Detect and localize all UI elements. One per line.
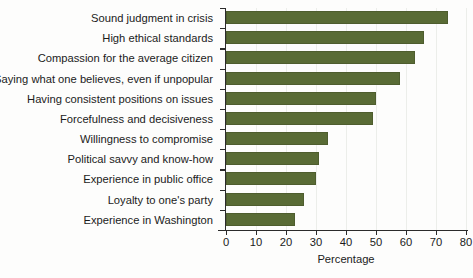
bar-row <box>226 69 466 89</box>
bar <box>226 132 328 145</box>
bar-row <box>226 210 466 230</box>
x-axis-tick <box>286 230 287 235</box>
category-label: Forcefulness and decisiveness <box>60 109 213 129</box>
bar-row <box>226 109 466 129</box>
x-axis-title: Percentage <box>226 253 466 265</box>
bar <box>226 152 319 165</box>
bar <box>226 31 424 44</box>
x-axis-tick <box>226 230 227 235</box>
category-label: Willingness to compromise <box>80 129 213 149</box>
bar-row <box>226 149 466 169</box>
bar-row <box>226 129 466 149</box>
x-axis-tick-label: 50 <box>370 236 382 248</box>
bar-chart: Sound judgment in crisisHigh ethical sta… <box>0 0 473 278</box>
x-axis-tick <box>376 230 377 235</box>
bar <box>226 172 316 185</box>
x-axis-tick-label: 10 <box>250 236 262 248</box>
bar <box>226 92 376 105</box>
y-axis-tick <box>220 28 225 29</box>
y-axis-tick <box>220 210 225 211</box>
category-label: Saying what one believes, even if unpopu… <box>0 69 213 89</box>
x-axis-tick <box>436 230 437 235</box>
bar <box>226 11 448 24</box>
category-label: Sound judgment in crisis <box>91 8 213 28</box>
x-axis-tick-label: 40 <box>340 236 352 248</box>
x-axis-tick <box>316 230 317 235</box>
category-label: High ethical standards <box>102 28 213 48</box>
bar-row <box>226 28 466 48</box>
x-axis-tick-label: 60 <box>400 236 412 248</box>
y-axis-tick <box>220 8 225 9</box>
bar <box>226 72 400 85</box>
y-axis-tick <box>220 190 225 191</box>
x-axis-tick-label: 70 <box>430 236 442 248</box>
x-axis-tick <box>466 230 467 235</box>
bar <box>226 193 304 206</box>
bar-row <box>226 169 466 189</box>
y-axis-tick <box>220 89 225 90</box>
x-axis-tick-label: 0 <box>223 236 229 248</box>
category-label: Compassion for the average citizen <box>38 48 213 68</box>
y-axis-line <box>225 8 226 230</box>
bar-row <box>226 190 466 210</box>
category-label: Loyalty to one's party <box>108 190 213 210</box>
x-axis-tick-label: 80 <box>460 236 472 248</box>
bar <box>226 112 373 125</box>
category-label: Experience in Washington <box>83 210 213 230</box>
category-label: Experience in public office <box>83 169 213 189</box>
y-axis-tick <box>220 129 225 130</box>
category-label: Having consistent positions on issues <box>27 89 213 109</box>
bar-row <box>226 89 466 109</box>
x-axis-tick-label: 20 <box>280 236 292 248</box>
bar <box>226 213 295 226</box>
y-axis-tick <box>220 69 225 70</box>
y-axis-tick <box>220 109 225 110</box>
x-axis-tick <box>346 230 347 235</box>
y-axis-tick <box>220 149 225 150</box>
y-axis-tick <box>220 48 225 49</box>
x-axis-tick <box>256 230 257 235</box>
category-label: Political savvy and know-how <box>67 149 213 169</box>
x-axis-tick <box>406 230 407 235</box>
gridline <box>466 8 467 230</box>
bar-row <box>226 48 466 68</box>
plot-area <box>226 8 466 230</box>
category-axis-labels: Sound judgment in crisisHigh ethical sta… <box>0 8 221 230</box>
x-axis-tick-label: 30 <box>310 236 322 248</box>
bar <box>226 51 415 64</box>
y-axis-tick <box>220 169 225 170</box>
bar-row <box>226 8 466 28</box>
